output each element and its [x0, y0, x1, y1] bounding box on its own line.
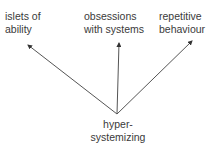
node-label-line: hyper- [90, 118, 146, 131]
node-label-line: with systems [84, 23, 144, 36]
node-label-line: ability [5, 23, 41, 36]
node-hyper-systemizing: hyper- systemizing [90, 118, 146, 144]
arrow-to-obsessions [117, 43, 119, 114]
node-label-line: systemizing [90, 131, 146, 144]
node-label-line: behaviour [159, 23, 205, 36]
node-obsessions-with-systems: obsessions with systems [84, 10, 144, 36]
node-label-line: obsessions [84, 10, 144, 23]
node-label-line: repetitive [159, 10, 205, 23]
node-label-line: islets of [5, 10, 41, 23]
node-islets-of-ability: islets of ability [5, 10, 41, 36]
arrow-to-islets [28, 45, 117, 114]
arrow-to-repetitive [117, 41, 192, 114]
node-repetitive-behaviour: repetitive behaviour [159, 10, 205, 36]
